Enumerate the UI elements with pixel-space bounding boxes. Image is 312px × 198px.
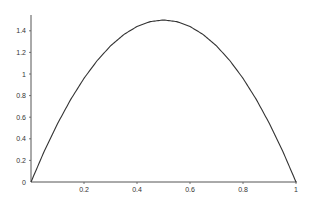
x-tick-label: 1 xyxy=(294,186,298,193)
axis-ticks: 0.20.40.60.8100.20.40.60.811.21.4 xyxy=(16,27,298,193)
y-tick-label: 0.2 xyxy=(16,157,26,164)
data-curve xyxy=(31,20,296,182)
y-tick-label: 1.2 xyxy=(16,49,26,56)
origin-label: 0 xyxy=(22,179,26,186)
x-tick-label: 0.8 xyxy=(238,186,248,193)
y-tick-label: 0.8 xyxy=(16,92,26,99)
x-tick-label: 0.4 xyxy=(132,186,142,193)
chart: 0.20.40.60.8100.20.40.60.811.21.4 xyxy=(0,0,312,198)
y-tick-label: 0.6 xyxy=(16,114,26,121)
x-tick-label: 0.2 xyxy=(79,186,89,193)
x-tick-label: 0.6 xyxy=(185,186,195,193)
y-tick-label: 1 xyxy=(22,71,26,78)
y-tick-label: 0.4 xyxy=(16,135,26,142)
y-tick-label: 1.4 xyxy=(16,27,26,34)
